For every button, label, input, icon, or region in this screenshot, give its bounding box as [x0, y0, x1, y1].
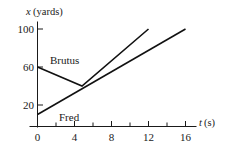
y-tick-label-100: 100 [18, 23, 35, 35]
position-vs-time-graph: 100 60 20 0 4 8 12 16 x (yards) t (s) Br… [0, 0, 225, 157]
y-axis-label-unit: (yards) [33, 6, 63, 18]
x-tick-label-12: 12 [143, 131, 154, 143]
y-tick-label-20: 20 [23, 99, 35, 111]
y-axis-label-variable: x [25, 6, 31, 17]
x-axis-label: t (s) [199, 117, 216, 129]
x-axis-label-unit: (s) [204, 117, 216, 129]
series-label-fred: Fred [59, 111, 80, 123]
figure-container: 100 60 20 0 4 8 12 16 x (yards) t (s) Br… [0, 0, 225, 157]
y-tick-label-60: 60 [23, 61, 35, 73]
x-tick-label-0: 0 [35, 131, 41, 143]
x-axis-label-variable: t [199, 117, 203, 128]
x-tick-label-4: 4 [72, 131, 78, 143]
series-label-brutus: Brutus [50, 54, 79, 66]
series-line-fred [38, 29, 186, 115]
x-tick-label-16: 16 [180, 131, 192, 143]
y-axis-label: x (yards) [25, 6, 63, 18]
x-tick-label-8: 8 [109, 131, 115, 143]
